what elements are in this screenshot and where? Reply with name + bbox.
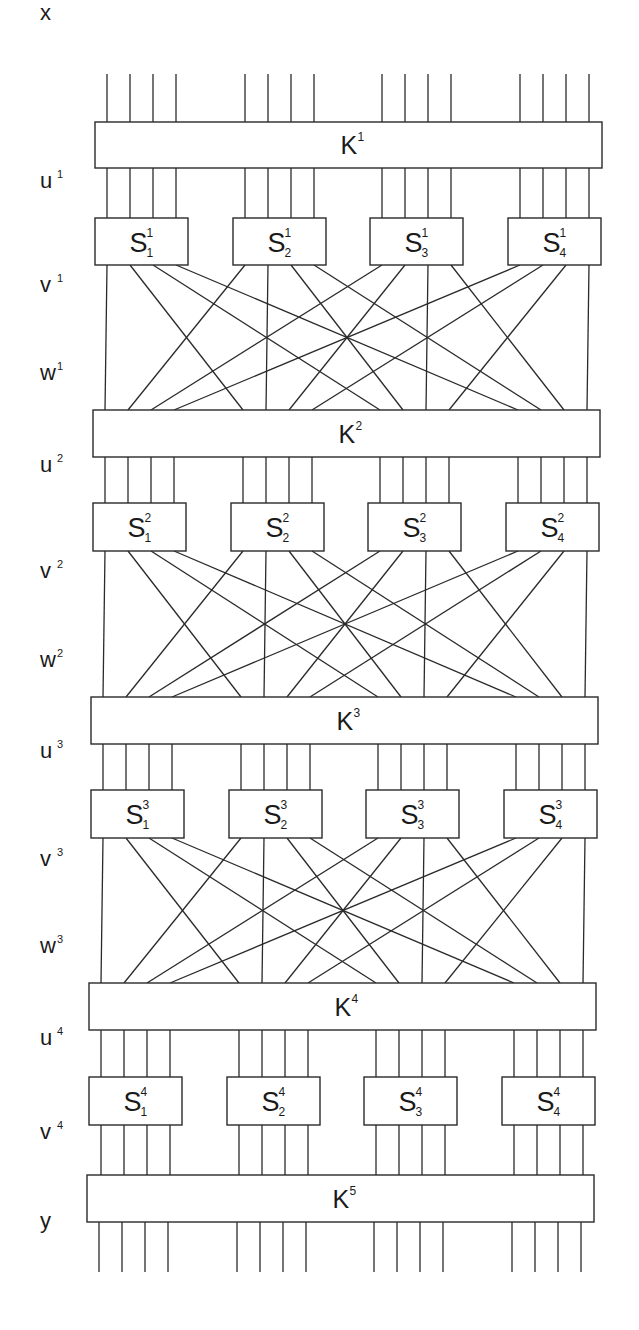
spn-diagram: K1K2K3K4K5S11S12S13S14S21S22S23S24S31S32… (0, 0, 639, 1330)
sbox-index-subscript: 3 (416, 1105, 423, 1119)
state-label-superscript: 4 (57, 1119, 63, 1131)
state-label-x: x (40, 0, 51, 25)
sbox-label: S (266, 513, 284, 543)
permutation-wire (101, 838, 103, 983)
sbox-label: S (268, 228, 286, 258)
sbox-round-superscript: 2 (283, 511, 290, 525)
sbox-label: S (130, 228, 148, 258)
sbox-round-superscript: 4 (554, 1085, 561, 1099)
key-label: K (341, 131, 358, 159)
permutation-wire (583, 838, 585, 983)
sbox-index-subscript: 4 (554, 1105, 561, 1119)
state-label-superscript: 1 (57, 168, 63, 180)
sbox-round-superscript: 3 (418, 798, 425, 812)
sbox-index-subscript: 2 (281, 818, 288, 832)
sbox-round-superscript: 1 (285, 226, 292, 240)
sbox-round-superscript: 2 (558, 511, 565, 525)
sbox-label: S (126, 800, 144, 830)
sbox-label: S (537, 1087, 555, 1117)
state-label-superscript: 4 (57, 1025, 63, 1037)
permutation-wire (587, 265, 589, 410)
state-label-superscript: 3 (57, 738, 63, 750)
sbox-index-subscript: 4 (558, 531, 565, 545)
sbox-round-superscript: 2 (145, 511, 152, 525)
sbox-index-subscript: 2 (283, 531, 290, 545)
sbox-label: S (403, 513, 421, 543)
state-label-superscript: 2 (57, 452, 63, 464)
permutation-wire (105, 265, 107, 410)
sbox-index-subscript: 3 (418, 818, 425, 832)
state-label-superscript: 3 (57, 933, 63, 945)
state-label-w1: w (39, 360, 56, 385)
sbox-round-superscript: 1 (422, 226, 429, 240)
sbox-round-superscript: 2 (420, 511, 427, 525)
sbox-round-superscript: 3 (556, 798, 563, 812)
state-label-u4: u (40, 1025, 52, 1050)
sbox-index-subscript: 2 (285, 246, 292, 260)
state-label-u3: u (40, 738, 52, 763)
sbox-round-superscript: 4 (279, 1085, 286, 1099)
key-label: K (337, 707, 354, 735)
sbox-label: S (399, 1087, 417, 1117)
key-round-superscript: 1 (358, 130, 365, 144)
sbox-round-superscript: 1 (560, 226, 567, 240)
state-label-w3: w (39, 933, 56, 958)
sbox-index-subscript: 1 (147, 246, 154, 260)
state-label-v3: v (40, 846, 51, 871)
state-label-superscript: 1 (57, 272, 63, 284)
sbox-label: S (262, 1087, 280, 1117)
key-round-superscript: 4 (352, 992, 359, 1006)
sbox-label: S (124, 1087, 142, 1117)
state-label-superscript: 3 (57, 846, 63, 858)
state-label-v2: v (40, 558, 51, 583)
sbox-index-subscript: 3 (422, 246, 429, 260)
state-label-superscript: 2 (57, 558, 63, 570)
key-label: K (339, 420, 356, 448)
sbox-label: S (401, 800, 419, 830)
sbox-index-subscript: 3 (420, 531, 427, 545)
key-round-superscript: 5 (350, 1184, 357, 1198)
state-label-superscript: 2 (57, 647, 63, 659)
sbox-index-subscript: 1 (141, 1105, 148, 1119)
key-label: K (335, 993, 352, 1021)
state-label-v4: v (40, 1119, 51, 1144)
sbox-index-subscript: 4 (560, 246, 567, 260)
sbox-round-superscript: 3 (281, 798, 288, 812)
label-layer: K1K2K3K4K5S11S12S13S14S21S22S23S24S31S32… (39, 0, 567, 1233)
sbox-round-superscript: 3 (143, 798, 150, 812)
state-label-y: y (40, 1208, 51, 1233)
sbox-label: S (128, 513, 146, 543)
permutation-wire (585, 551, 587, 697)
sbox-label: S (543, 228, 561, 258)
sbox-round-superscript: 1 (147, 226, 154, 240)
sbox-label: S (541, 513, 559, 543)
key-label: K (333, 1185, 350, 1213)
sbox-index-subscript: 1 (145, 531, 152, 545)
state-label-u2: u (40, 452, 52, 477)
key-round-superscript: 2 (356, 419, 363, 433)
state-label-w2: w (39, 647, 56, 672)
sbox-index-subscript: 1 (143, 818, 150, 832)
sbox-index-subscript: 2 (279, 1105, 286, 1119)
sbox-round-superscript: 4 (141, 1085, 148, 1099)
state-label-v1: v (40, 272, 51, 297)
sbox-label: S (539, 800, 557, 830)
state-label-superscript: 1 (57, 360, 63, 372)
sbox-round-superscript: 4 (416, 1085, 423, 1099)
sbox-index-subscript: 4 (556, 818, 563, 832)
sbox-label: S (264, 800, 282, 830)
state-label-u1: u (40, 168, 52, 193)
permutation-wire (103, 551, 105, 697)
key-round-superscript: 3 (354, 706, 361, 720)
box-layer (87, 122, 602, 1222)
sbox-label: S (405, 228, 423, 258)
